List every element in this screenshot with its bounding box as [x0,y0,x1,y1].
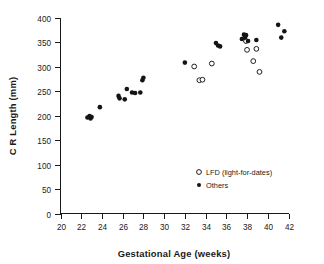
chart-canvas: 050100150200250300350400 202224262830323… [0,0,324,264]
x-tick-label: 40 [264,223,274,232]
data-point [279,35,284,40]
data-point [138,90,143,95]
data-point [282,29,287,34]
x-tick-label: 20 [57,223,67,232]
data-point [218,44,223,49]
x-tick-label: 38 [243,223,253,232]
data-point [200,77,205,82]
x-tick-label: 32 [181,223,191,232]
y-tick-label: 250 [37,88,51,97]
data-point [251,59,256,64]
data-point [98,105,103,110]
x-tick-label: 24 [98,223,108,232]
data-point [254,46,259,51]
data-point [89,115,94,120]
x-tick-label: 28 [139,223,149,232]
data-point [245,47,250,52]
y-tick-label: 100 [37,162,51,171]
data-point [246,39,251,44]
x-tick-label: 36 [222,223,232,232]
y-tick-label: 50 [42,186,52,195]
y-tick-label: 350 [37,39,51,48]
x-axis-title: Gestational Age (weeks) [118,248,231,259]
data-point [125,87,130,92]
data-point [257,69,262,74]
y-tick-label: 400 [37,15,51,24]
data-point [192,64,197,69]
data-point [209,61,214,66]
x-tick-label: 30 [160,223,170,232]
y-tick-label: 300 [37,64,51,73]
data-point [244,33,249,38]
data-point [141,75,146,80]
scatter-plot-figure: 050100150200250300350400 202224262830323… [0,0,324,264]
y-axis-title: C R Length (mm) [7,77,18,156]
legend-label: Others [206,181,228,190]
data-point [276,23,281,28]
y-tick-label: 200 [37,113,51,122]
data-point [183,60,188,65]
x-tick-label: 26 [119,223,129,232]
x-tick-label: 22 [77,223,87,232]
legend-marker-open-circle-icon [197,170,202,175]
x-tick-label: 34 [202,223,212,232]
data-point [117,96,122,101]
y-tick-label: 0 [46,211,51,220]
legend-label: LFD (light-for-dates) [206,168,272,177]
data-point [133,91,138,96]
x-tick-label: 42 [285,223,295,232]
data-point [254,38,259,43]
legend-marker-filled-circle-icon [197,183,201,187]
data-point [122,97,127,102]
y-tick-label: 150 [37,137,51,146]
